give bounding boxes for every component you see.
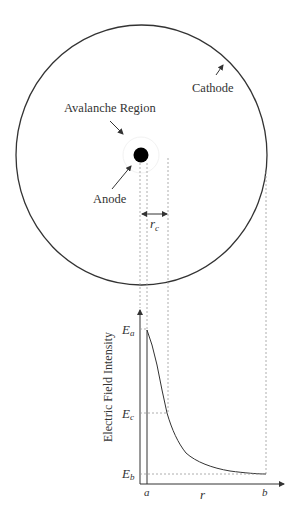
rc-label: rc [150,216,159,233]
cathode-label: Cathode [192,81,234,95]
anode-label: Anode [93,192,127,206]
y-axis-title: Electric Field Intensity [101,332,115,442]
Eb-tick-label: Eb [121,466,135,482]
rc-label-sub: c [155,223,159,233]
b-tick-label: b [262,486,268,498]
Ea-tick-label: Ea [121,322,135,338]
avalanche-region-label: Avalanche Region [64,101,156,115]
x-axis-label: r [200,487,206,502]
Ea-sub: a [130,328,135,338]
Eb-sub: b [130,472,135,482]
Ec-tick-label: Ec [121,406,134,422]
cathode-arrow [216,65,223,75]
anode-arrow [112,166,131,189]
Ec-sub: c [130,412,134,422]
proportional-counter-diagram: Cathode Avalanche Region Anode rc Ea Ec … [0,0,294,518]
a-tick-label: a [144,486,150,498]
Ec-main: E [121,406,130,421]
avalanche-region-arrow [110,121,123,134]
Eb-main: E [121,466,130,481]
electric-field-curve [147,330,266,474]
anode-wire [134,148,149,163]
Ea-main: E [121,322,130,337]
